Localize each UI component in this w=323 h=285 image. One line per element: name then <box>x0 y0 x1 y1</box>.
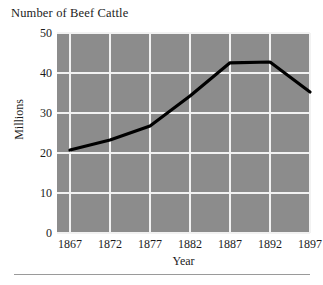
beef-cattle-series-polyline <box>70 62 310 150</box>
data-series-line <box>57 33 310 233</box>
y-tick-label-40: 40 <box>2 67 52 79</box>
x-tick-label-1887: 1887 <box>208 237 252 251</box>
x-tick-label-1897: 1897 <box>288 237 323 251</box>
x-tick-label-1882: 1882 <box>168 237 212 251</box>
bottom-divider <box>14 274 310 275</box>
y-tick-label-30: 30 <box>2 107 52 119</box>
beef-cattle-line-chart-figure: Number of Beef Cattle 50 40 30 20 10 0 M… <box>0 0 323 285</box>
x-tick-label-1872: 1872 <box>88 237 132 251</box>
x-axis-title: Year <box>57 254 310 269</box>
x-tick-label-1892: 1892 <box>248 237 292 251</box>
plot-area <box>57 33 310 233</box>
x-tick-label-1877: 1877 <box>128 237 172 251</box>
y-tick-label-20: 20 <box>2 147 52 159</box>
y-tick-label-0: 0 <box>2 227 52 239</box>
y-tick-label-10: 10 <box>2 187 52 199</box>
y-axis-title: Millions <box>12 85 27 155</box>
y-tick-label-50: 50 <box>2 27 52 39</box>
x-axis-tick-labels: 1867 1872 1877 1882 1887 1892 1897 <box>57 237 310 253</box>
x-tick-label-1867: 1867 <box>48 237 92 251</box>
